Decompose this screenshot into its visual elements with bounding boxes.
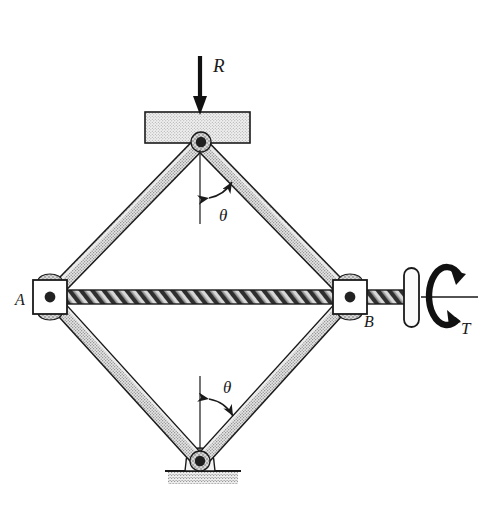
torque-arrowhead-top: [451, 270, 466, 285]
shaft-handle-group: [404, 268, 419, 327]
joint-b-pin: [345, 292, 356, 303]
joint-a-group: [33, 274, 67, 320]
ground-hatch-strip: [168, 471, 238, 484]
link-a-bottom: [50, 294, 204, 462]
load-force-label: R: [212, 55, 225, 76]
link-b-bottom: [197, 293, 350, 462]
top-pivot-pin: [196, 137, 206, 147]
upper-angle-label: θ: [219, 206, 227, 225]
load-force-arrow-group: [193, 56, 207, 115]
top-pivot-group: [191, 132, 211, 152]
diagram-canvas: R A B T θ θ: [0, 0, 483, 505]
torque-symbol-group: [421, 267, 478, 326]
bottom-pivot-pin: [195, 456, 205, 466]
joint-a-label: A: [14, 291, 25, 308]
lower-angle-arc-arrow: [209, 399, 233, 416]
lower-angle-label: θ: [223, 378, 231, 397]
torque-arrowhead-bottom: [447, 310, 461, 326]
joint-b-label: B: [364, 313, 374, 330]
torque-label: T: [461, 319, 472, 338]
link-top-a: [47, 140, 200, 297]
joint-a-pin: [45, 292, 56, 303]
upper-angle-arc-arrow: [209, 182, 232, 198]
mechanism-diagram-figure: R A B T θ θ: [0, 0, 483, 505]
joint-b-group: [333, 274, 367, 320]
shaft-handle: [404, 268, 419, 327]
bottom-pivot-group: [190, 451, 210, 471]
